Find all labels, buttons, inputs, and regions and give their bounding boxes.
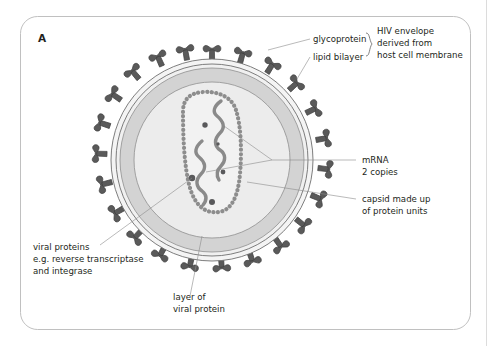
label-mrna: mRNA 2 copies (362, 155, 398, 177)
viral-protein-dot (216, 142, 219, 145)
label-mrna-line-1: mRNA (362, 155, 389, 165)
glycoprotein-spike (302, 99, 323, 121)
label-viral-protein-layer: layer of viral protein (173, 292, 225, 314)
glycoprotein-spike (104, 85, 126, 108)
glycoprotein-spike (314, 129, 331, 149)
label-glycoprotein: glycoprotein (313, 34, 366, 44)
leader-lipid-bilayer (297, 57, 310, 79)
glycoprotein-spike (96, 173, 114, 194)
panel-label: A (38, 32, 47, 44)
label-hiv-envelope-line-3: host cell membrane (377, 50, 463, 60)
label-viral-proteins: viral proteins e.g. reverse transcriptas… (33, 242, 144, 276)
glycoprotein-spike (317, 159, 334, 178)
glycoprotein-spike (123, 62, 146, 85)
label-viral-proteins-line-3: and integrase (33, 266, 92, 276)
glycoprotein-spike (308, 187, 328, 209)
label-viral-proteins-line-1: viral proteins (33, 242, 90, 252)
glycoprotein-spike (93, 113, 112, 134)
capsid (183, 92, 241, 212)
label-viral-protein-layer-line-1: layer of (173, 292, 207, 302)
glycoprotein-spike (92, 145, 107, 163)
figure-panel: A (0, 0, 491, 346)
glycoprotein-spike (203, 45, 221, 60)
label-hiv-envelope: HIV envelope derived from host cell memb… (377, 26, 463, 60)
viral-protein-dot (221, 170, 226, 175)
label-capsid: capsid made up of protein units (362, 194, 431, 216)
label-hiv-envelope-line-1: HIV envelope (377, 26, 434, 36)
glycoprotein-spike (176, 44, 196, 61)
label-mrna-line-2: 2 copies (362, 167, 398, 177)
hiv-virion-diagram: A (0, 0, 491, 346)
glycoprotein-spike (148, 49, 170, 70)
envelope-brace (366, 33, 372, 56)
label-hiv-envelope-line-2: derived from (377, 38, 432, 48)
label-capsid-line-2: of protein units (362, 206, 428, 216)
label-viral-proteins-line-2: e.g. reverse transcriptase (33, 254, 144, 264)
label-viral-protein-layer-line-2: viral protein (173, 304, 225, 314)
viral-protein-dot (202, 122, 207, 127)
viral-protein-dot (209, 199, 215, 205)
leader-glycoprotein (268, 39, 310, 50)
label-capsid-line-1: capsid made up (362, 194, 431, 204)
label-lipid-bilayer: lipid bilayer (313, 52, 364, 62)
